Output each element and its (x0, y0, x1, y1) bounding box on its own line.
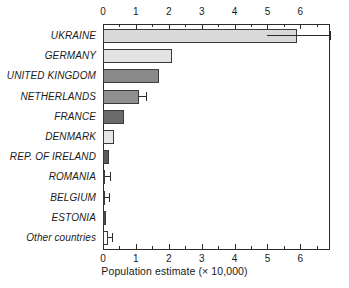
error-bar-cap (110, 172, 111, 181)
bar-row: FRANCE (0, 107, 349, 127)
bar (103, 150, 109, 164)
x-tick-label: 0 (93, 253, 113, 264)
error-bar-cap (330, 31, 331, 40)
category-label: FRANCE (0, 107, 96, 127)
error-bar-cap (112, 233, 113, 242)
bar (103, 90, 139, 104)
bar-row: Other countries (0, 228, 349, 248)
error-bar-cap (146, 92, 147, 101)
bar-row: BELGIUM (0, 188, 349, 208)
category-label: Other countries (0, 228, 96, 248)
category-label: DENMARK (0, 127, 96, 147)
bar (103, 170, 105, 184)
error-bar (139, 96, 146, 97)
bar-row: UNITED KINGDOM (0, 66, 349, 86)
x-tick-label: 5 (257, 253, 277, 264)
category-label: BELGIUM (0, 188, 96, 208)
bar-row: ESTONIA (0, 208, 349, 228)
category-label: UKRAINE (0, 26, 96, 46)
category-label: REP. OF IRELAND (0, 147, 96, 167)
x-tick-label: 4 (225, 253, 245, 264)
bar (103, 29, 297, 43)
x-tick-label: 3 (192, 253, 212, 264)
category-label: ROMANIA (0, 167, 96, 187)
bar (103, 231, 108, 245)
x-tick-label: 1 (126, 6, 146, 17)
bar (103, 191, 105, 205)
category-label: ESTONIA (0, 208, 96, 228)
bar-row: NETHERLANDS (0, 87, 349, 107)
x-tick-label: 4 (225, 6, 245, 17)
x-tick-label: 2 (159, 253, 179, 264)
x-tick-label: 6 (290, 6, 310, 17)
x-axis-title: Population estimate (× 10,000) (0, 265, 349, 277)
bar-row: DENMARK (0, 127, 349, 147)
error-bar-cap (109, 193, 110, 202)
category-label: GERMANY (0, 46, 96, 66)
bar-row: REP. OF IRELAND (0, 147, 349, 167)
bar-row: UKRAINE (0, 26, 349, 46)
x-tick-label: 6 (290, 253, 310, 264)
x-tick-label: 0 (93, 6, 113, 17)
population-bar-chart: 0123456 0123456 UKRAINEGERMANYUNITED KIN… (0, 0, 349, 288)
x-tick-label: 1 (126, 253, 146, 264)
bar (103, 49, 172, 63)
x-tick-label: 3 (192, 6, 212, 17)
x-tick-label: 5 (257, 6, 277, 17)
error-bar (267, 35, 330, 36)
bar (103, 211, 106, 225)
bar (103, 69, 159, 83)
category-label: UNITED KINGDOM (0, 66, 96, 86)
x-tick-label: 2 (159, 6, 179, 17)
bar-row: ROMANIA (0, 167, 349, 187)
bar (103, 130, 114, 144)
bar-row: GERMANY (0, 46, 349, 66)
category-label: NETHERLANDS (0, 87, 96, 107)
bar (103, 110, 124, 124)
